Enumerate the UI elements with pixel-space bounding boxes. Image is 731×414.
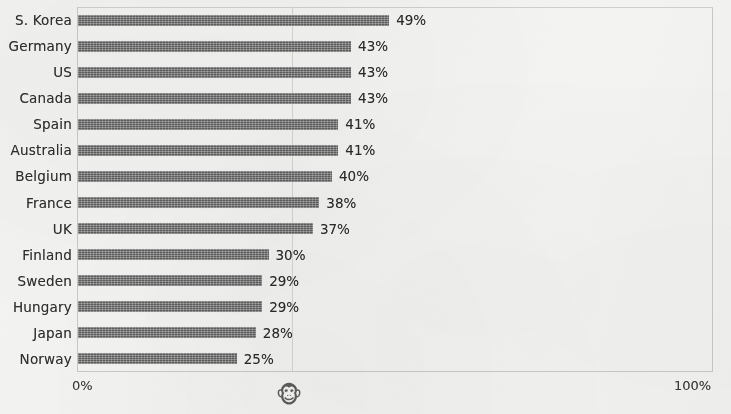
bar-row: UK37%: [0, 216, 731, 242]
bar-row: Canada43%: [0, 85, 731, 111]
category-label: Norway: [0, 351, 72, 367]
category-label: Hungary: [0, 299, 72, 315]
bar-value-label: 49%: [396, 12, 426, 28]
x-axis-max-tick-label: 100%: [674, 378, 711, 393]
bar-row: Japan28%: [0, 320, 731, 346]
category-label: UK: [0, 221, 72, 237]
bar-track: 38%: [78, 190, 713, 216]
bar-rows-container: S. Korea49%Germany43%US43%Canada43%Spain…: [0, 7, 731, 372]
category-label: Japan: [0, 325, 72, 341]
bar: [78, 41, 351, 52]
bar-track: 29%: [78, 294, 713, 320]
category-label: Finland: [0, 247, 72, 263]
bar-track: 49%: [78, 7, 713, 33]
bar-row: France38%: [0, 190, 731, 216]
bar-track: 41%: [78, 137, 713, 163]
bar-value-label: 41%: [345, 142, 375, 158]
bar-value-label: 30%: [276, 247, 306, 263]
bar-value-label: 29%: [269, 273, 299, 289]
bar-track: 40%: [78, 163, 713, 189]
category-label: Australia: [0, 142, 72, 158]
bar-track: 25%: [78, 346, 713, 372]
bar: [78, 119, 338, 130]
bar-value-label: 43%: [358, 38, 388, 54]
bar-value-label: 40%: [339, 168, 369, 184]
category-label: S. Korea: [0, 12, 72, 28]
bar-track: 28%: [78, 320, 713, 346]
bar: [78, 171, 332, 182]
bar-row: Finland30%: [0, 242, 731, 268]
bar-row: Australia41%: [0, 137, 731, 163]
bar: [78, 67, 351, 78]
bar-row: Germany43%: [0, 33, 731, 59]
bar-track: 29%: [78, 268, 713, 294]
bar-chart: S. Korea49%Germany43%US43%Canada43%Spain…: [0, 0, 731, 414]
bar-track: 30%: [78, 242, 713, 268]
x-axis-min-tick-label: 0%: [72, 378, 93, 393]
category-label: Canada: [0, 90, 72, 106]
bar-track: 43%: [78, 85, 713, 111]
bar-value-label: 37%: [320, 221, 350, 237]
bar: [78, 145, 338, 156]
bar-row: S. Korea49%: [0, 7, 731, 33]
bar: [78, 249, 269, 260]
bar-value-label: 41%: [345, 116, 375, 132]
bar-track: 43%: [78, 33, 713, 59]
bar-row: Hungary29%: [0, 294, 731, 320]
monkey-face-icon: 🐵: [275, 381, 303, 409]
bar: [78, 353, 237, 364]
bar: [78, 197, 319, 208]
category-label: France: [0, 195, 72, 211]
bar-value-label: 29%: [269, 299, 299, 315]
bar-row: Norway25%: [0, 346, 731, 372]
bar-row: Sweden29%: [0, 268, 731, 294]
bar-track: 41%: [78, 111, 713, 137]
category-label: Belgium: [0, 168, 72, 184]
bar-value-label: 43%: [358, 64, 388, 80]
bar-row: Spain41%: [0, 111, 731, 137]
bar: [78, 327, 256, 338]
bar: [78, 223, 313, 234]
bar-row: Belgium40%: [0, 163, 731, 189]
bar-track: 37%: [78, 216, 713, 242]
bar-row: US43%: [0, 59, 731, 85]
category-label: Germany: [0, 38, 72, 54]
bar: [78, 275, 262, 286]
bar: [78, 301, 262, 312]
category-label: Sweden: [0, 273, 72, 289]
bar-value-label: 25%: [244, 351, 274, 367]
bar-value-label: 43%: [358, 90, 388, 106]
bar: [78, 15, 389, 26]
bar-value-label: 38%: [326, 195, 356, 211]
bar: [78, 93, 351, 104]
bar-value-label: 28%: [263, 325, 293, 341]
bar-track: 43%: [78, 59, 713, 85]
category-label: US: [0, 64, 72, 80]
category-label: Spain: [0, 116, 72, 132]
